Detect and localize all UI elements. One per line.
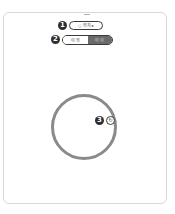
rotate-icon: ↻ bbox=[108, 117, 112, 123]
circle-handle-button[interactable]: ↻ bbox=[106, 116, 115, 125]
circle-icon: ○ bbox=[78, 23, 82, 29]
location-pill-button[interactable]: ○ 위치 ▸ bbox=[69, 21, 103, 30]
pill-label: 위치 bbox=[83, 23, 91, 29]
arrow-right-icon: ▸ bbox=[92, 23, 94, 29]
toggle-right-option[interactable]: 아 이 bbox=[88, 36, 113, 44]
callout-marker-3: 3 bbox=[95, 116, 104, 125]
toggle-left-option[interactable]: 이 위 bbox=[63, 36, 88, 44]
callout-marker-2: 2 bbox=[51, 35, 60, 44]
callout-marker-1: 1 bbox=[58, 21, 67, 30]
segmented-toggle[interactable]: 이 위 아 이 bbox=[62, 35, 113, 45]
circular-area[interactable] bbox=[51, 94, 117, 160]
frame-notch bbox=[84, 14, 90, 15]
